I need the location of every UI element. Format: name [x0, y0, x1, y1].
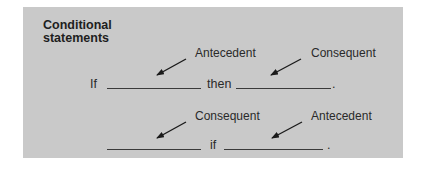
row2-antecedent-blank [224, 149, 323, 150]
row1-then-word: then [207, 78, 231, 91]
row1-if-word: If [90, 78, 97, 91]
row2-consequent-blank [107, 149, 201, 150]
row1-consequent-blank [236, 88, 331, 89]
panel-title: Conditional statements [43, 19, 133, 45]
row2-consequent-label: Consequent [195, 110, 260, 123]
row1-consequent-label: Consequent [311, 47, 376, 60]
row1-antecedent-blank [107, 88, 201, 89]
row2-if-word: if [210, 139, 216, 152]
row1-period: . [332, 78, 335, 91]
row1-antecedent-label: Antecedent [195, 47, 256, 60]
row2-period: . [327, 139, 330, 152]
row2-antecedent-label: Antecedent [311, 110, 372, 123]
